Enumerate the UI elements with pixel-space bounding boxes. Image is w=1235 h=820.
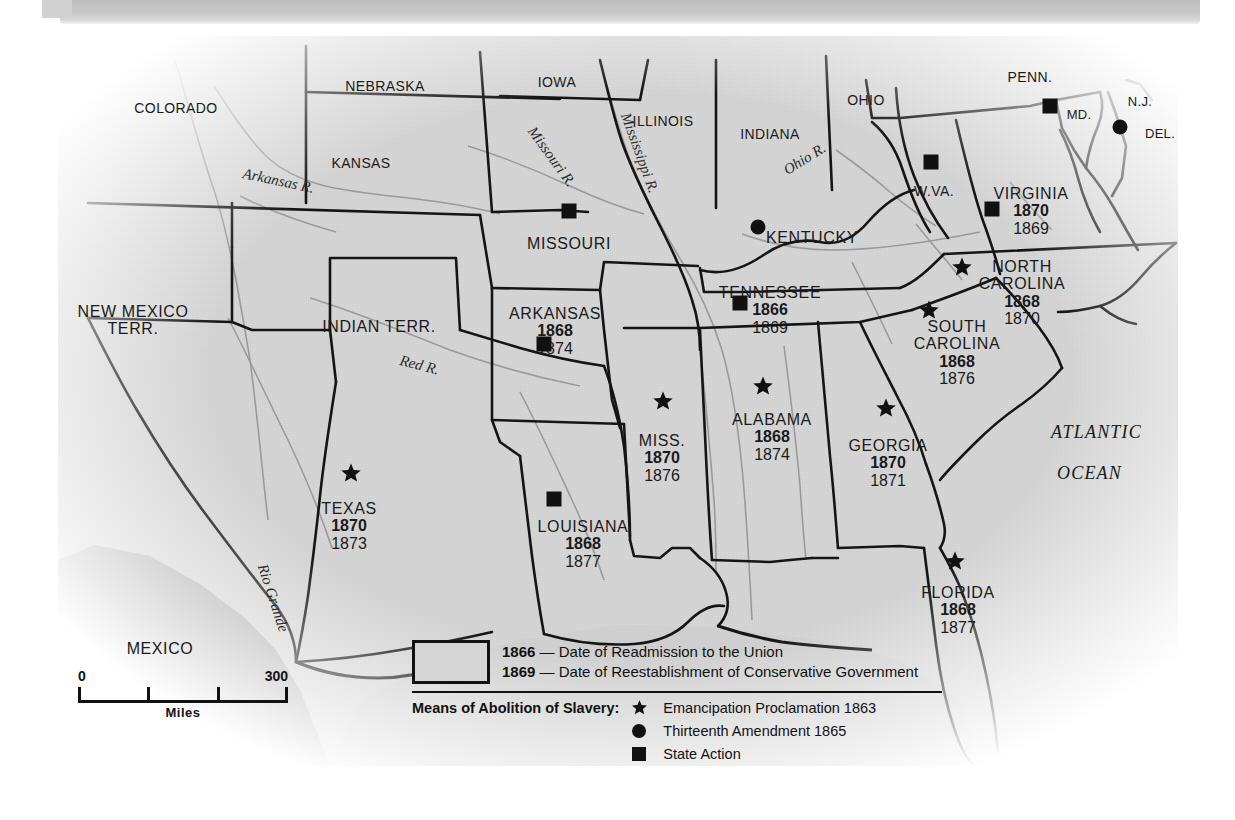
state-name: ILLINOIS	[633, 114, 694, 129]
conservative-year: 1873	[321, 535, 376, 552]
abolition-marker-circle-icon	[1113, 120, 1128, 135]
legend-circle-icon	[629, 724, 649, 738]
state-label-north: NORTHCAROLINA18681870	[979, 258, 1066, 327]
legend-conservative-text: — Date of Reestablishment of Conservativ…	[540, 663, 919, 680]
legend-conservative-line: 1869 — Date of Reestablishment of Conser…	[502, 662, 918, 682]
legend-item-label: State Action	[663, 746, 740, 762]
state-name: MISSOURI	[527, 235, 611, 252]
state-label-penn: PENN.	[1008, 70, 1053, 85]
state-name: TEXAS	[321, 500, 376, 517]
abolition-marker-star-icon	[944, 550, 966, 572]
ocean-label-atlantic: ATLANTIC	[1051, 422, 1142, 443]
state-name: N.J.	[1128, 95, 1152, 109]
legend-conservative-year: 1869	[502, 663, 535, 680]
abolition-marker-square-icon	[1043, 99, 1058, 114]
readmission-year: 1868	[732, 428, 812, 445]
legend-readmission-text: — Date of Readmission to the Union	[540, 643, 783, 660]
state-label-mexico: MEXICO	[127, 640, 194, 657]
state-name: MISS.	[639, 432, 686, 449]
state-label-kentucky: KENTUCKY	[766, 229, 858, 246]
state-name: GEORGIA	[849, 437, 928, 454]
state-name: INDIANA	[740, 127, 800, 142]
legend-means-row: Means of Abolition of Slavery: Emancipat…	[412, 699, 942, 762]
abolition-marker-star-icon	[340, 462, 362, 484]
legend-item: State Action	[629, 746, 876, 762]
legend-square-icon	[629, 747, 649, 761]
conservative-year: 1871	[849, 472, 928, 489]
state-name: VIRGINIA	[993, 185, 1068, 202]
abolition-marker-star-icon	[951, 256, 973, 278]
state-label-louisiana: LOUISIANA18681877	[538, 518, 629, 570]
conservative-year: 1877	[921, 619, 995, 636]
readmission-year: 1870	[849, 454, 928, 471]
state-label-virginia: VIRGINIA18701869	[993, 185, 1068, 237]
map-page: COLORADONEBRASKAKANSASIOWAILLINOISINDIAN…	[0, 0, 1235, 820]
abolition-marker-square-icon	[537, 337, 552, 352]
abolition-marker-square-icon	[562, 204, 577, 219]
state-name-2: TERR.	[78, 320, 189, 337]
ocean-label-ocean: OCEAN	[1057, 463, 1122, 484]
state-label-colorado: COLORADO	[134, 101, 217, 116]
state-name: OHIO	[847, 93, 884, 108]
state-label-illinois: ILLINOIS	[633, 114, 694, 129]
state-label-miss: MISS.18701876	[639, 432, 686, 484]
state-name: ALABAMA	[732, 411, 812, 428]
readmission-year: 1870	[993, 202, 1068, 219]
scale-max-label: 300	[265, 668, 288, 684]
state-label-del: DEL.	[1145, 127, 1175, 141]
state-label-w-va: W.VA.	[914, 184, 954, 199]
state-label-missouri: MISSOURI	[527, 235, 611, 252]
abolition-marker-square-icon	[547, 492, 562, 507]
state-name: MD.	[1067, 108, 1092, 122]
map-legend: 1866 — Date of Readmission to the Union …	[412, 640, 942, 762]
state-name: NEW MEXICO	[78, 303, 189, 320]
state-label-texas: TEXAS18701873	[321, 500, 376, 552]
abolition-marker-circle-icon	[751, 220, 766, 235]
state-label-south: SOUTHCAROLINA18681876	[914, 318, 1001, 387]
abolition-marker-square-icon	[924, 155, 939, 170]
readmission-year: 1868	[509, 322, 601, 339]
state-name: IOWA	[538, 75, 576, 90]
legend-means-title: Means of Abolition of Slavery:	[412, 699, 619, 716]
state-label-indian-terr: INDIAN TERR.	[322, 318, 436, 335]
scale-bar-line	[78, 686, 288, 703]
state-name: KENTUCKY	[766, 229, 858, 246]
abolition-marker-star-icon	[875, 397, 897, 419]
state-label-alabama: ALABAMA18681874	[732, 411, 812, 463]
legend-item: Emancipation Proclamation 1863	[629, 699, 876, 716]
legend-item-label: Thirteenth Amendment 1865	[663, 723, 846, 739]
state-name: INDIAN TERR.	[322, 318, 436, 335]
readmission-year: 1868	[914, 353, 1001, 370]
state-name: PENN.	[1008, 70, 1053, 85]
scale-min-label: 0	[78, 668, 86, 684]
readmission-year: 1868	[538, 535, 629, 552]
conservative-year: 1876	[914, 370, 1001, 387]
abolition-marker-square-icon	[985, 202, 1000, 217]
conservative-year: 1874	[732, 446, 812, 463]
state-label-arkansas: ARKANSAS18681874	[509, 305, 601, 357]
state-label-georgia: GEORGIA18701871	[849, 437, 928, 489]
legend-readmission-line: 1866 — Date of Readmission to the Union	[502, 642, 918, 662]
conservative-year: 1869	[993, 220, 1068, 237]
legend-star-icon	[629, 699, 649, 716]
legend-state-swatch	[412, 640, 490, 684]
readmission-year: 1870	[639, 449, 686, 466]
state-name: KANSAS	[331, 156, 390, 171]
state-label-florida: FLORIDA18681877	[921, 584, 995, 636]
state-label-nebraska: NEBRASKA	[345, 79, 424, 94]
state-name: W.VA.	[914, 184, 954, 199]
state-label-new-mexico: NEW MEXICOTERR.	[78, 303, 189, 338]
conservative-year: 1869	[719, 319, 821, 336]
state-name: LOUISIANA	[538, 518, 629, 535]
abolition-marker-star-icon	[652, 390, 674, 412]
state-name-2: CAROLINA	[914, 335, 1001, 352]
abolition-marker-square-icon	[733, 296, 748, 311]
legend-readmission-year: 1866	[502, 643, 535, 660]
readmission-year: 1868	[979, 293, 1066, 310]
legend-item-label: Emancipation Proclamation 1863	[663, 700, 876, 716]
legend-item-list: Emancipation Proclamation 1863Thirteenth…	[629, 699, 876, 762]
state-name: NEBRASKA	[345, 79, 424, 94]
state-name: MEXICO	[127, 640, 194, 657]
conservative-year: 1877	[538, 553, 629, 570]
state-label-indiana: INDIANA	[740, 127, 800, 142]
